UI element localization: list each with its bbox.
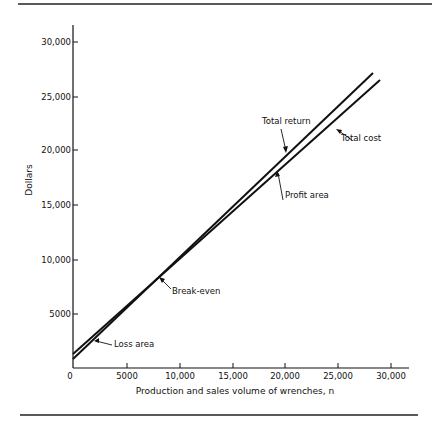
x-tick-label: 10,000 — [165, 371, 195, 381]
y-tick-label: 30,000 — [41, 37, 71, 47]
total-cost-line — [73, 80, 380, 354]
break-even-label: Break-even — [172, 286, 220, 296]
y-tick-label: 25,000 — [41, 92, 71, 102]
y-tick-label: 5000 — [49, 309, 71, 319]
break-even-chart: 30,000 25,000 20,000 15,000 10,000 5000 … — [0, 0, 432, 421]
y-tick-label: 10,000 — [41, 255, 71, 265]
annotation-leaders — [96, 129, 352, 345]
x-tick-label: 20,000 — [270, 371, 300, 381]
total-cost-label: Total cost — [340, 133, 382, 143]
y-ticks — [73, 42, 78, 314]
total-return-line — [73, 73, 373, 359]
x-tick-label: 25,000 — [323, 371, 353, 381]
profit-area-label: Profit area — [285, 190, 329, 200]
x-tick-label: 0 — [67, 371, 72, 381]
y-axis-title: Dollars — [24, 164, 34, 196]
x-tick-label: 30,000 — [376, 371, 406, 381]
arrowheads — [94, 129, 342, 343]
total-return-label: Total return — [261, 116, 311, 126]
x-tick-label: 5000 — [116, 371, 138, 381]
x-axis-title: Production and sales volume of wrenches,… — [136, 386, 334, 396]
x-ticks — [127, 363, 391, 368]
y-tick-label: 20,000 — [41, 145, 71, 155]
y-tick-label: 15,000 — [41, 200, 71, 210]
x-tick-label: 15,000 — [218, 371, 248, 381]
loss-area-label: Loss area — [114, 339, 154, 349]
